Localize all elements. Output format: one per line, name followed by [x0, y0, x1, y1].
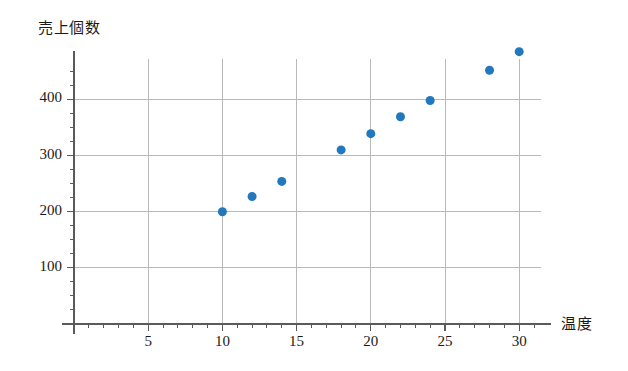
x-tick-label: 25	[425, 333, 465, 350]
x-tick-label: 5	[128, 333, 168, 350]
x-axis-ticks	[74, 324, 534, 331]
y-axis-ticks	[67, 71, 74, 324]
y-tick-label: 300	[6, 146, 62, 163]
data-point[interactable]	[218, 207, 227, 216]
data-point[interactable]	[396, 112, 405, 121]
plot-canvas	[0, 0, 628, 371]
data-point[interactable]	[426, 96, 435, 105]
y-tick-label: 100	[6, 258, 62, 275]
data-point[interactable]	[277, 177, 286, 186]
x-tick-label: 10	[202, 333, 242, 350]
x-axis-title: 温度	[561, 312, 592, 333]
x-tick-label: 20	[351, 333, 391, 350]
data-point[interactable]	[515, 47, 524, 56]
data-point[interactable]	[337, 145, 346, 154]
data-point[interactable]	[248, 192, 257, 201]
gridlines-vertical	[148, 59, 519, 324]
scatter-chart-figure: 売上個数 温度 100200300400 51015202530	[0, 0, 628, 371]
y-axis-title: 売上個数	[38, 16, 100, 37]
y-tick-label: 400	[6, 89, 62, 106]
gridlines-horizontal	[74, 99, 541, 267]
data-point[interactable]	[366, 129, 375, 138]
data-point[interactable]	[485, 66, 494, 75]
x-tick-label: 15	[277, 333, 317, 350]
y-tick-label: 200	[6, 202, 62, 219]
x-tick-label: 30	[499, 333, 539, 350]
